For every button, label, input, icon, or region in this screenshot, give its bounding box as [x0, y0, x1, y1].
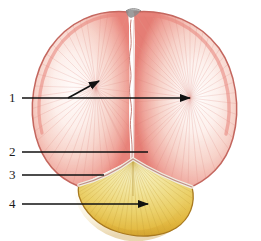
label-number-2: 2	[9, 145, 16, 158]
sagittal-suture	[130, 20, 135, 158]
label-number-1: 1	[9, 91, 16, 104]
anatomical-figure: 1 2 3 4	[0, 0, 261, 241]
skull-illustration	[0, 0, 261, 241]
left-parietal-bone	[31, 12, 131, 187]
label-number-3: 3	[9, 168, 16, 181]
label-number-4: 4	[9, 197, 16, 210]
right-parietal-bone	[134, 11, 241, 189]
